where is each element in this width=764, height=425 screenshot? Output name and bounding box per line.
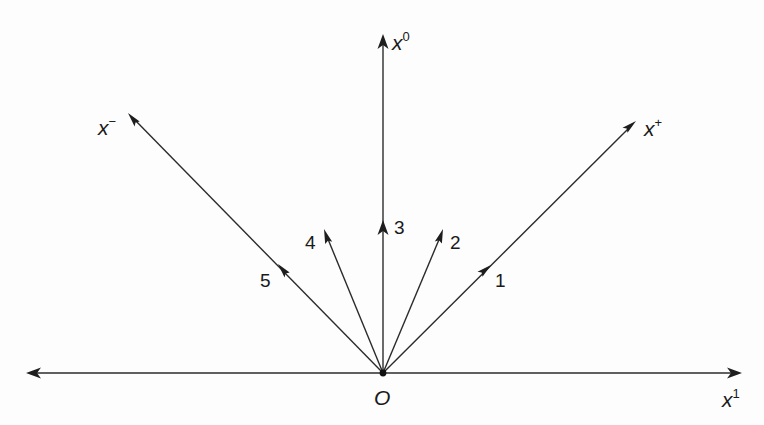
xplus-arrowhead-icon [623, 121, 637, 133]
vector-4-label: 4 [305, 232, 316, 253]
vector-3-label: 3 [394, 217, 405, 238]
xminus-axis [128, 113, 383, 373]
x0-label: x0 [391, 29, 410, 54]
vector-1-label: 1 [495, 270, 506, 291]
vector-4 [324, 229, 383, 373]
xplus-axis [383, 121, 636, 373]
x1-label: x1 [721, 386, 740, 411]
vector-1-arrowhead-icon [478, 265, 492, 277]
vector-1 [478, 265, 492, 277]
vector-5-label: 5 [260, 270, 271, 291]
vector-4-arrowhead-icon [324, 229, 332, 244]
vector-2-label: 2 [450, 232, 461, 253]
x0-axis [378, 34, 389, 373]
lightcone-diagram: x0 x1 x+ x− O 1 2 3 4 5 [0, 0, 764, 425]
vector-2 [383, 229, 443, 373]
xminus-label: x− [97, 114, 116, 139]
diagram-canvas: x0 x1 x+ x− O 1 2 3 4 5 [0, 0, 764, 425]
origin-point [380, 370, 387, 377]
xplus-label: x+ [643, 115, 662, 140]
xminus-arrowhead-icon [128, 113, 140, 127]
origin-label: O [374, 386, 390, 409]
